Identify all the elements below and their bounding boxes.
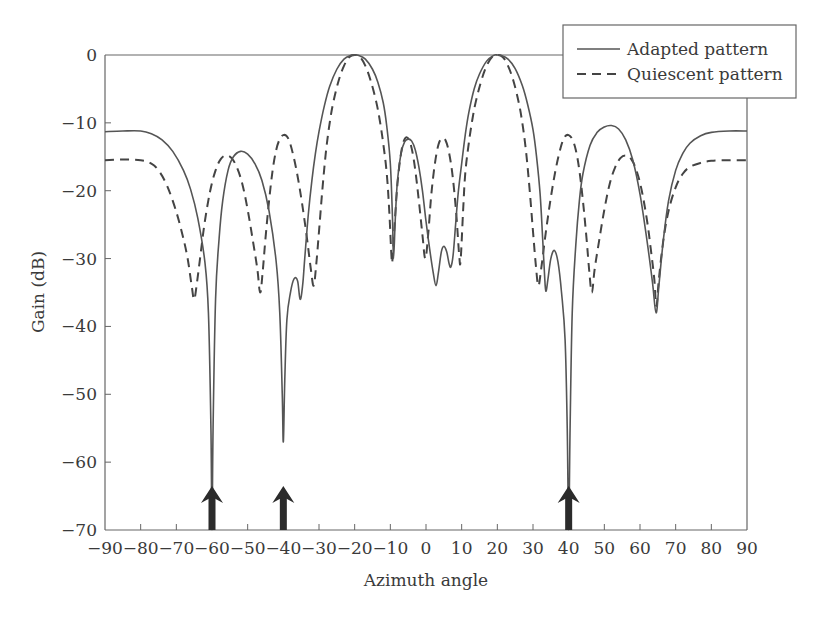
jammer-arrow-icon (558, 486, 580, 530)
x-tick-label: −20 (337, 538, 373, 558)
chart-canvas: −90−80−70−60−50−40−30−20−100102030405060… (0, 0, 825, 621)
jammer-arrows (201, 486, 580, 530)
x-tick-label: 10 (451, 538, 473, 558)
x-tick-label: −40 (265, 538, 301, 558)
x-tick-label: 20 (487, 538, 509, 558)
x-tick-label: −60 (194, 538, 230, 558)
x-tick-label: −90 (87, 538, 123, 558)
adapted-pattern-line (105, 55, 747, 530)
y-tick-label: −40 (61, 316, 97, 336)
x-tick-label: 60 (629, 538, 651, 558)
x-tick-label: −30 (301, 538, 337, 558)
x-tick-label: 40 (558, 538, 580, 558)
y-tick-label: 0 (86, 45, 97, 65)
y-tick-label: −50 (61, 384, 97, 404)
y-tick-label: −30 (61, 249, 97, 269)
x-tick-label: 80 (701, 538, 723, 558)
x-tick-label: 50 (594, 538, 616, 558)
y-tick-label: −10 (61, 113, 97, 133)
legend-label-adapted: Adapted pattern (626, 39, 768, 59)
y-tick-label: −60 (61, 452, 97, 472)
y-tick-label: −20 (61, 181, 97, 201)
x-tick-label: 90 (736, 538, 758, 558)
series-adapted (105, 55, 747, 530)
x-tick-label: −70 (158, 538, 194, 558)
plot-frame (105, 55, 747, 530)
x-tick-label: 70 (665, 538, 687, 558)
x-tick-label: 30 (522, 538, 544, 558)
legend-label-quiescent: Quiescent pattern (627, 64, 783, 84)
jammer-arrow-icon (201, 486, 223, 530)
jammer-arrow-icon (272, 486, 294, 530)
y-axis-title: Gain (dB) (28, 251, 48, 333)
x-tick-label: −50 (230, 538, 266, 558)
x-tick-label: −10 (372, 538, 408, 558)
y-axis-ticks: 0−10−20−30−40−50−60−70 (61, 45, 111, 540)
x-axis-ticks: −90−80−70−60−50−40−30−20−100102030405060… (87, 524, 758, 558)
x-tick-label: 0 (421, 538, 432, 558)
x-axis-title: Azimuth angle (363, 570, 488, 590)
legend: Adapted pattern Quiescent pattern (563, 25, 796, 98)
x-tick-label: −80 (123, 538, 159, 558)
y-tick-label: −70 (61, 520, 97, 540)
legend-box (563, 25, 796, 98)
